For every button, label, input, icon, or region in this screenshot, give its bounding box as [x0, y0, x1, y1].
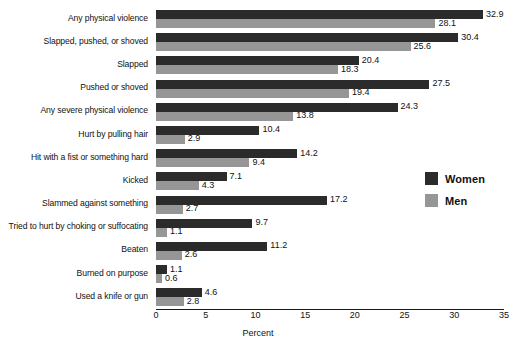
- bar-men: [156, 19, 435, 28]
- category-label: Slammed against something: [0, 192, 152, 215]
- bar-women: [156, 149, 297, 158]
- legend-label: Men: [445, 195, 467, 207]
- bar-value-label: 24.3: [401, 102, 419, 111]
- bar-group: 11.22.6: [156, 238, 504, 261]
- bar-men: [156, 65, 338, 74]
- category-label: Hit with a fist or something hard: [0, 145, 152, 168]
- category-label: Beaten: [0, 238, 152, 261]
- category-label: Any severe physical violence: [0, 99, 152, 122]
- bar-value-label: 19.4: [352, 88, 370, 97]
- bar-value-label: 9.4: [252, 158, 265, 167]
- bar-women: [156, 103, 398, 112]
- bar-value-label: 1.1: [170, 227, 183, 236]
- bar-men: [156, 228, 167, 237]
- bar-value-label: 32.9: [486, 10, 504, 19]
- bar-men: [156, 205, 183, 214]
- category-label: Slapped, pushed, or shoved: [0, 29, 152, 52]
- bar-group: 27.519.4: [156, 76, 504, 99]
- bar-value-label: 17.2: [330, 195, 348, 204]
- bar-value-label: 0.6: [165, 274, 178, 283]
- bar-group: 14.29.4: [156, 145, 504, 168]
- bar-men: [156, 112, 293, 121]
- bar-men: [156, 89, 349, 98]
- bar-men: [156, 135, 185, 144]
- category-label: Slapped: [0, 52, 152, 75]
- bar-value-label: 2.6: [185, 250, 198, 259]
- legend-label: Women: [445, 173, 485, 185]
- bar-value-label: 2.8: [187, 297, 200, 306]
- bar-value-label: 4.3: [202, 181, 215, 190]
- x-axis-title: Percent: [0, 328, 516, 338]
- bar-women: [156, 80, 429, 89]
- bar-value-label: 27.5: [432, 79, 450, 88]
- bar-value-label: 13.8: [296, 111, 314, 120]
- bar-value-label: 11.2: [270, 241, 287, 250]
- bar-men: [156, 42, 411, 51]
- category-label: Tried to hurt by choking or suffocating: [0, 215, 152, 238]
- bar-women: [156, 242, 267, 251]
- bar-group: 24.313.8: [156, 99, 504, 122]
- bar-value-label: 2.7: [186, 204, 199, 213]
- bar-value-label: 14.2: [300, 149, 318, 158]
- x-axis-tick-label: 5: [203, 310, 208, 320]
- bar-group: 20.418.3: [156, 52, 504, 75]
- bar-value-label: 18.3: [341, 65, 359, 74]
- x-axis-tick-label: 35: [499, 310, 509, 320]
- bar-value-label: 9.7: [255, 218, 268, 227]
- bar-value-label: 7.1: [230, 172, 243, 181]
- bar-group: 10.42.9: [156, 122, 504, 145]
- bar-women: [156, 10, 483, 19]
- category-label: Pushed or shoved: [0, 76, 152, 99]
- legend-swatch-icon: [425, 194, 438, 207]
- category-axis-labels: Any physical violenceSlapped, pushed, or…: [0, 6, 152, 307]
- bar-value-label: 2.9: [188, 134, 201, 143]
- chart-legend: WomenMen: [425, 172, 485, 216]
- bar-men: [156, 297, 184, 306]
- category-label: Burned on purpose: [0, 261, 152, 284]
- plot-area: 32.928.130.425.620.418.327.519.424.313.8…: [156, 6, 504, 309]
- legend-swatch-icon: [425, 172, 438, 185]
- bar-value-label: 30.4: [461, 33, 479, 42]
- category-label: Hurt by pulling hair: [0, 122, 152, 145]
- bar-women: [156, 172, 227, 181]
- legend-item: Women: [425, 172, 485, 185]
- bar-men: [156, 274, 162, 283]
- x-axis-tick-label: 25: [400, 310, 410, 320]
- x-axis-tick-label: 30: [449, 310, 459, 320]
- category-label: Used a knife or gun: [0, 284, 152, 307]
- bar-women: [156, 126, 259, 135]
- bar-group: 9.71.1: [156, 215, 504, 238]
- bar-men: [156, 158, 249, 167]
- bar-women: [156, 196, 327, 205]
- x-axis-tick-label: 20: [350, 310, 360, 320]
- x-axis-tick-label: 15: [300, 310, 310, 320]
- bar-value-label: 10.4: [262, 125, 280, 134]
- bar-group: 30.425.6: [156, 29, 504, 52]
- bar-women: [156, 56, 359, 65]
- bar-chart: Any physical violenceSlapped, pushed, or…: [0, 0, 516, 349]
- bar-group: 4.62.8: [156, 284, 504, 307]
- category-label: Kicked: [0, 168, 152, 191]
- bar-value-label: 28.1: [438, 19, 456, 28]
- bar-group: 1.10.6: [156, 261, 504, 284]
- bar-value-label: 25.6: [414, 42, 432, 51]
- x-axis-tick-label: 0: [153, 310, 158, 320]
- bar-men: [156, 251, 182, 260]
- bar-value-label: 20.4: [362, 56, 380, 65]
- bar-men: [156, 181, 199, 190]
- bar-group: 32.928.1: [156, 6, 504, 29]
- bar-value-label: 4.6: [205, 288, 218, 297]
- legend-item: Men: [425, 194, 485, 207]
- category-label: Any physical violence: [0, 6, 152, 29]
- x-axis-tick-label: 10: [250, 310, 260, 320]
